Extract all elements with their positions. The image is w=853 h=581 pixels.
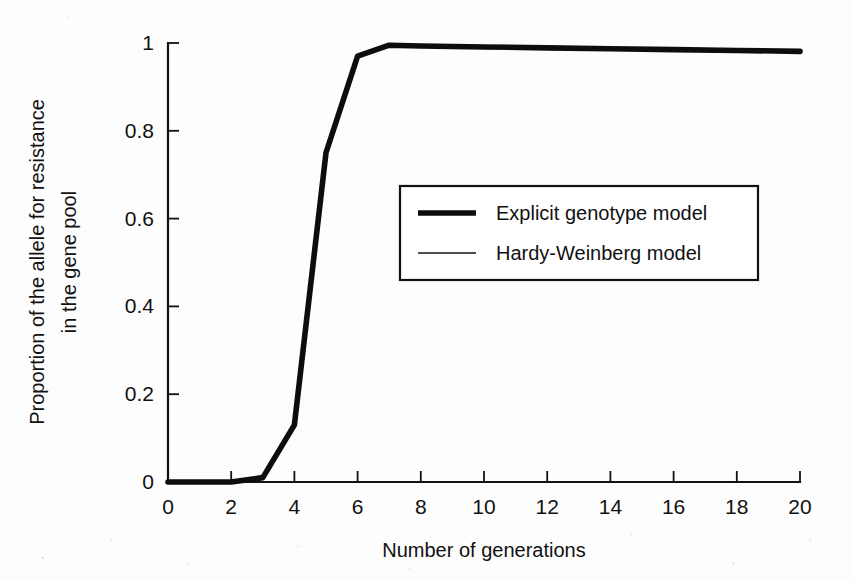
y-axis-title-line2: in the gene pool	[58, 191, 80, 333]
x-tick-label: 8	[415, 495, 427, 518]
y-tick-0.2: 0.2	[125, 382, 179, 405]
x-tick-label: 18	[725, 495, 748, 518]
x-tick-label: 14	[599, 495, 623, 518]
y-tick-label: 0	[142, 470, 154, 493]
x-tick-14: 14	[599, 471, 623, 518]
x-tick-12: 12	[536, 471, 559, 518]
x-tick-20: 20	[788, 471, 811, 518]
x-tick-label: 10	[472, 495, 495, 518]
y-axis-ticks: 00.20.40.60.81	[125, 31, 179, 493]
x-tick-label: 20	[788, 495, 811, 518]
x-tick-label: 6	[352, 495, 364, 518]
x-tick-label: 0	[162, 495, 174, 518]
x-tick-18: 18	[725, 471, 748, 518]
y-tick-1: 1	[142, 31, 179, 54]
chart-legend: Explicit genotype modelHardy-Weinberg mo…	[400, 186, 758, 280]
x-tick-0: 0	[162, 471, 174, 518]
chart-figure: Proportion of the allele for resistance …	[0, 0, 853, 581]
y-tick-label: 0.2	[125, 382, 154, 405]
y-tick-label: 0.6	[125, 207, 154, 230]
legend-label: Hardy-Weinberg model	[496, 242, 701, 264]
x-tick-16: 16	[662, 471, 685, 518]
chart-canvas: Proportion of the allele for resistance …	[0, 0, 853, 581]
x-tick-label: 12	[536, 495, 559, 518]
y-tick-label: 0.4	[125, 294, 155, 317]
y-tick-0.8: 0.8	[125, 119, 179, 142]
x-axis-title: Number of generations	[382, 539, 585, 561]
x-tick-6: 6	[352, 471, 364, 518]
x-tick-4: 4	[289, 471, 301, 518]
y-axis-title: Proportion of the allele for resistance …	[26, 99, 80, 425]
x-tick-label: 2	[225, 495, 237, 518]
legend-label: Explicit genotype model	[496, 202, 707, 224]
y-axis-title-line1: Proportion of the allele for resistance	[26, 99, 48, 425]
x-tick-10: 10	[472, 471, 495, 518]
y-tick-label: 1	[142, 31, 154, 54]
x-tick-8: 8	[415, 471, 427, 518]
y-tick-label: 0.8	[125, 119, 154, 142]
x-tick-label: 16	[662, 495, 685, 518]
y-tick-0.6: 0.6	[125, 207, 179, 230]
y-tick-0.4: 0.4	[125, 294, 179, 317]
x-tick-2: 2	[225, 471, 237, 518]
legend-box	[400, 186, 758, 280]
x-tick-label: 4	[289, 495, 301, 518]
